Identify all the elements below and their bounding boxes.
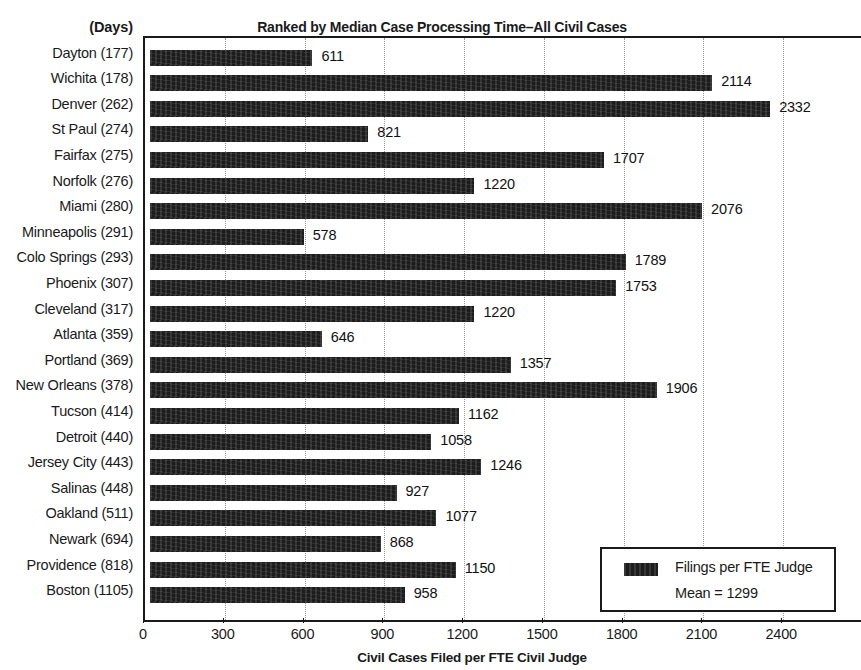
bar[interactable] xyxy=(150,562,456,578)
bar-row[interactable]: 1220 xyxy=(150,173,861,199)
bar-row[interactable]: 821 xyxy=(150,121,861,147)
bar-value-label: 1753 xyxy=(625,278,656,294)
category-label: Minneapolis (291) xyxy=(0,224,133,240)
x-tick-mark-2100 xyxy=(701,618,702,623)
bar[interactable] xyxy=(150,229,304,245)
category-label: Tucson (414) xyxy=(0,403,133,419)
bar[interactable] xyxy=(150,75,712,91)
bar[interactable] xyxy=(150,280,616,296)
chart-title: Ranked by Median Case Processing Time–Al… xyxy=(143,19,861,35)
bar-row[interactable]: 1789 xyxy=(150,249,861,275)
category-label: Norfolk (276) xyxy=(0,173,133,189)
x-tick-mark-300 xyxy=(223,618,224,623)
bar-row[interactable]: 2076 xyxy=(150,198,861,224)
x-tick-label: 2400 xyxy=(765,626,796,642)
category-label: Miami (280) xyxy=(0,198,133,214)
bar-row[interactable]: 1906 xyxy=(150,377,861,403)
legend-swatch-filings xyxy=(624,563,658,576)
bar-value-label: 1150 xyxy=(465,560,495,576)
x-tick-mark-0 xyxy=(143,618,144,623)
plot-area: 6112114233282117071220207657817891753122… xyxy=(143,36,861,622)
bar-value-label: 578 xyxy=(313,227,337,243)
bar-row[interactable]: 646 xyxy=(150,326,861,352)
x-tick-mark-1800 xyxy=(622,618,623,623)
x-tick-label: 1500 xyxy=(526,626,557,642)
bar-value-label: 868 xyxy=(390,534,414,550)
bar-row[interactable]: 1707 xyxy=(150,147,861,173)
bar[interactable] xyxy=(150,254,626,270)
bar-value-label: 1220 xyxy=(483,304,514,320)
category-label: Jersey City (443) xyxy=(0,454,133,470)
x-tick-label: 2100 xyxy=(686,626,717,642)
chart-container: (Days) Ranked by Median Case Processing … xyxy=(0,0,861,670)
x-tick-label: 300 xyxy=(211,626,235,642)
x-tick-label: 900 xyxy=(371,626,395,642)
x-tick-label: 1800 xyxy=(606,626,637,642)
x-tick-mark-600 xyxy=(303,618,304,623)
x-tick-mark-1200 xyxy=(462,618,463,623)
x-tick-mark-2400 xyxy=(781,618,782,623)
bar[interactable] xyxy=(150,510,436,526)
bar[interactable] xyxy=(150,408,459,424)
category-label: Salinas (448) xyxy=(0,480,133,496)
category-label: Colo Springs (293) xyxy=(0,249,133,265)
bar-value-label: 2076 xyxy=(711,201,742,217)
x-axis-ticks: 030060090012001500180021002400 xyxy=(143,624,861,648)
category-label: Wichita (178) xyxy=(0,70,133,86)
bar[interactable] xyxy=(150,382,657,398)
bar-row[interactable]: 2332 xyxy=(150,96,861,122)
bar-row[interactable]: 1753 xyxy=(150,275,861,301)
bar-row[interactable]: 1357 xyxy=(150,352,861,378)
bar[interactable] xyxy=(150,126,368,142)
bar-row[interactable]: 1058 xyxy=(150,429,861,455)
category-label: Denver (262) xyxy=(0,96,133,112)
bar[interactable] xyxy=(150,178,474,194)
legend-series-label: Filings per FTE Judge xyxy=(675,559,813,575)
bar-value-label: 1906 xyxy=(666,380,697,396)
category-label: Cleveland (317) xyxy=(0,301,133,317)
category-label: Fairfax (275) xyxy=(0,147,133,163)
days-column-header: (Days) xyxy=(0,19,133,35)
bar[interactable] xyxy=(150,306,474,322)
bar[interactable] xyxy=(150,434,431,450)
bar-value-label: 1707 xyxy=(613,150,644,166)
x-tick-mark-1500 xyxy=(542,618,543,623)
bar-value-label: 1789 xyxy=(635,252,666,268)
bar-value-label: 1246 xyxy=(490,457,521,473)
bar[interactable] xyxy=(150,101,770,117)
bar-value-label: 1357 xyxy=(520,355,551,371)
bar[interactable] xyxy=(150,331,322,347)
bar-rows: 6112114233282117071220207657817891753122… xyxy=(145,38,861,620)
bar-row[interactable]: 1077 xyxy=(150,505,861,531)
bar-row[interactable]: 2114 xyxy=(150,70,861,96)
category-label: Atlanta (359) xyxy=(0,326,133,342)
category-label: New Orleans (378) xyxy=(0,377,133,393)
bar-row[interactable]: 1162 xyxy=(150,403,861,429)
bar-value-label: 958 xyxy=(414,585,438,601)
bar[interactable] xyxy=(150,50,312,66)
category-label: Dayton (177) xyxy=(0,45,133,61)
bar[interactable] xyxy=(150,357,511,373)
bar-row[interactable]: 578 xyxy=(150,224,861,250)
bar[interactable] xyxy=(150,203,702,219)
legend: Filings per FTE Judge Mean = 1299 xyxy=(600,547,836,612)
x-axis-title: Civil Cases Filed per FTE Civil Judge xyxy=(143,650,861,665)
bar[interactable] xyxy=(150,536,381,552)
bar-value-label: 1058 xyxy=(440,432,471,448)
x-tick-label: 0 xyxy=(139,626,147,642)
bar-value-label: 1220 xyxy=(483,176,514,192)
legend-mean-label: Mean = 1299 xyxy=(675,585,758,601)
bar[interactable] xyxy=(150,152,604,168)
category-label: Providence (818) xyxy=(0,557,133,573)
bar[interactable] xyxy=(150,485,397,501)
x-tick-label: 1200 xyxy=(446,626,477,642)
bar-row[interactable]: 927 xyxy=(150,480,861,506)
bar-row[interactable]: 1246 xyxy=(150,454,861,480)
x-tick-label: 600 xyxy=(291,626,315,642)
x-tick-mark-900 xyxy=(382,618,383,623)
bar-row[interactable]: 1220 xyxy=(150,301,861,327)
bar[interactable] xyxy=(150,587,405,603)
bar-row[interactable]: 611 xyxy=(150,45,861,71)
category-label: Boston (1105) xyxy=(0,582,133,598)
bar[interactable] xyxy=(150,459,481,475)
